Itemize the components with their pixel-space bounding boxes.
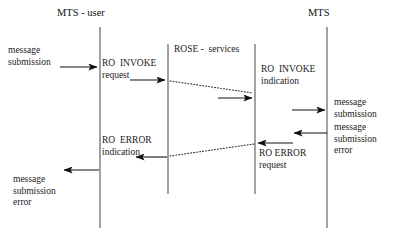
label-message-submission-left: message submission bbox=[8, 45, 51, 68]
header-mts: MTS bbox=[308, 7, 330, 19]
label-message-submission-right: message submission bbox=[334, 97, 377, 120]
label-ro-invoke-indication: RO INVOKE indication bbox=[261, 64, 315, 87]
label-ro-error-request: RO ERROR request bbox=[259, 148, 306, 171]
rose-services-box-label: ROSE - services bbox=[174, 44, 239, 56]
label-ro-error-indication: RO ERROR indication bbox=[102, 135, 152, 158]
arrow-ro-invoke-transfer bbox=[170, 81, 253, 93]
label-message-submission-error-left: message submission error bbox=[13, 174, 56, 209]
header-mts-user: MTS - user bbox=[57, 7, 105, 19]
arrow-ro-error-transfer bbox=[170, 144, 254, 156]
label-message-submission-error-right: message submission error bbox=[334, 122, 377, 157]
label-ro-invoke-request: RO INVOKE request bbox=[102, 58, 156, 81]
sequence-diagram: MTS - user MTS ROSE - services message s… bbox=[0, 0, 413, 238]
